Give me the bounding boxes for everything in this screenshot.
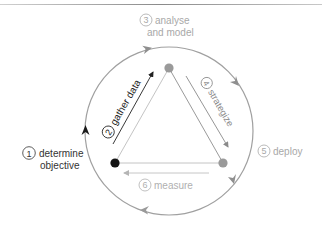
step-6-number: 6 [142, 180, 147, 190]
edge-node3-node5 [169, 68, 223, 163]
step-3-text-line2: and model [147, 27, 194, 38]
step-1-number: 1 [26, 149, 31, 159]
step-1-text-line2: objective [40, 160, 80, 171]
ring-arrow-bottom [140, 206, 149, 215]
step-1-label: 1 determine objective [23, 147, 84, 171]
step-6-text: measure [154, 180, 193, 191]
data-science-cycle-diagram: 1 determine objective 2 gather data 3 an… [0, 0, 322, 228]
step-2-number: 2 [103, 128, 114, 137]
step-6-label: 6 measure [139, 179, 193, 191]
step-5-number: 5 [261, 146, 266, 156]
node-deploy [218, 158, 227, 167]
node-determine-objective [110, 158, 119, 167]
step-3-text-line1: analyse [155, 15, 190, 26]
step-2-label: 2 gather data [100, 77, 143, 140]
step-5-text: deploy [273, 146, 302, 157]
step-1-text-line1: determine [39, 148, 84, 159]
step-4-label: 4 strategize [199, 75, 236, 128]
step-3-label: 3 analyse and model [140, 14, 194, 38]
step-2-text: gather data [108, 77, 143, 127]
step-5-label: 5 deploy [258, 145, 302, 157]
node-analyse-and-model [164, 63, 173, 72]
step-4-text: strategize [206, 87, 236, 128]
step-3-number: 3 [143, 15, 148, 25]
